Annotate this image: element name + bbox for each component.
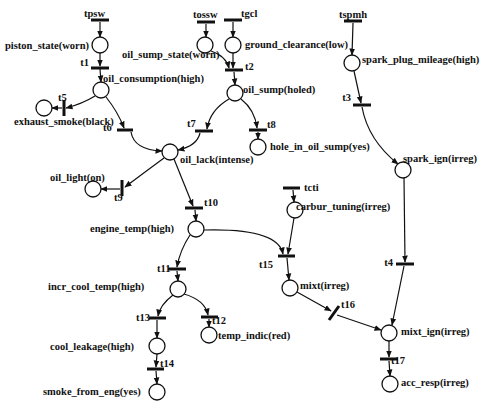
label-t10: t10 bbox=[204, 197, 218, 208]
label-t1: t1 bbox=[80, 57, 89, 68]
place-temp-indic[interactable] bbox=[201, 327, 217, 343]
label-piston-state: piston_state(worn) bbox=[5, 40, 89, 52]
label-hole-in-oil-sump: hole_in_oil_sump(yes) bbox=[270, 141, 370, 153]
place-mixt-ign[interactable] bbox=[381, 325, 397, 341]
label-t14: t14 bbox=[160, 358, 175, 369]
label-tspmh: tspmh bbox=[339, 9, 367, 20]
label-incr-cool-temp: incr_cool_temp(high) bbox=[48, 281, 145, 293]
place-oil-light[interactable] bbox=[85, 181, 101, 197]
label-exhaust-smoke: exhaust_smoke(black) bbox=[14, 116, 114, 128]
place-spark-plug-mileage[interactable] bbox=[344, 55, 360, 71]
place-labels: piston_state(worn) oil_consumption(high)… bbox=[5, 39, 480, 398]
label-oil-light: oil_light(on) bbox=[50, 172, 105, 184]
label-oil-consumption: oil_consumption(high) bbox=[103, 73, 204, 85]
label-t5: t5 bbox=[58, 92, 67, 103]
place-incr-cool-temp[interactable] bbox=[170, 281, 186, 297]
label-oil-sump-state: oil_sump_state(worn) bbox=[122, 49, 220, 61]
label-mixt: mixt(irreg) bbox=[300, 280, 350, 292]
place-cool-leakage[interactable] bbox=[149, 338, 165, 354]
label-ground-clearance: ground_clearance(low) bbox=[245, 39, 349, 51]
label-t16: t16 bbox=[341, 299, 355, 310]
label-t2: t2 bbox=[245, 61, 254, 72]
label-tossw: tossw bbox=[193, 9, 218, 20]
place-ground-clearance[interactable] bbox=[225, 37, 241, 53]
place-piston-state[interactable] bbox=[92, 37, 108, 53]
label-t12: t12 bbox=[212, 315, 226, 326]
label-t6: t6 bbox=[103, 122, 112, 133]
place-engine-temp[interactable] bbox=[188, 221, 204, 237]
place-oil-sump[interactable] bbox=[227, 85, 243, 101]
place-exhaust-smoke[interactable] bbox=[36, 100, 52, 116]
label-t17: t17 bbox=[391, 355, 405, 366]
label-smoke-from-eng: smoke_from_eng(yes) bbox=[43, 386, 141, 398]
place-hole-in-oil-sump[interactable] bbox=[250, 139, 266, 155]
label-acc-resp: acc_resp(irreg) bbox=[401, 377, 469, 389]
label-t3: t3 bbox=[342, 92, 351, 103]
label-tpsw: tpsw bbox=[84, 8, 105, 19]
place-smoke-from-eng[interactable] bbox=[149, 384, 165, 400]
label-temp-indic: temp_indic(red) bbox=[218, 330, 291, 342]
place-oil-lack[interactable] bbox=[162, 144, 178, 160]
place-mixt[interactable] bbox=[282, 280, 298, 296]
place-acc-resp[interactable] bbox=[382, 376, 398, 392]
label-t9: t9 bbox=[114, 192, 123, 203]
label-t13: t13 bbox=[136, 312, 150, 323]
label-t15: t15 bbox=[259, 259, 273, 270]
label-spark-plug-mileage: spark_plug_mileage(high) bbox=[362, 54, 480, 66]
place-spark-ign[interactable] bbox=[395, 162, 411, 178]
label-mixt-ign: mixt_ign(irreg) bbox=[401, 326, 470, 338]
label-t8: t8 bbox=[267, 119, 276, 130]
place-oil-consumption[interactable] bbox=[93, 82, 109, 98]
label-t11: t11 bbox=[157, 263, 170, 274]
label-spark-ign: spark_ign(irreg) bbox=[403, 153, 477, 165]
label-oil-sump: oil_sump(holed) bbox=[243, 84, 316, 96]
label-tgcl: tgcl bbox=[241, 8, 257, 19]
label-t7: t7 bbox=[187, 118, 196, 129]
transition-t16[interactable] bbox=[329, 306, 339, 320]
label-cool-leakage: cool_leakage(high) bbox=[50, 341, 134, 353]
label-oil-lack: oil_lack(intense) bbox=[180, 154, 254, 166]
petri-net-diagram: piston_state(worn) oil_consumption(high)… bbox=[0, 0, 482, 412]
label-t4: t4 bbox=[384, 257, 393, 268]
label-tcti: tcti bbox=[304, 182, 319, 193]
label-carbur-tuning: carbur_tuning(irreg) bbox=[296, 201, 391, 213]
label-engine-temp: engine_temp(high) bbox=[90, 223, 175, 235]
